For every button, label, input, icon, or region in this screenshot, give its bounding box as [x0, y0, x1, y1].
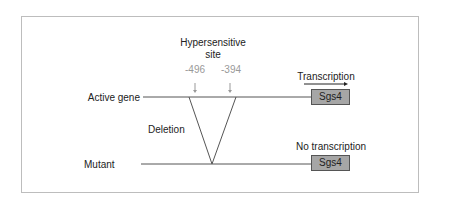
mutant-label: Mutant — [84, 159, 115, 170]
hypersensitive-site-label: Hypersensitive — [180, 37, 246, 48]
deletion-label: Deletion — [148, 124, 185, 135]
arrow-right-icon — [344, 82, 348, 86]
deletion-right-edge — [212, 97, 236, 164]
position-label-394: -394 — [221, 64, 241, 75]
gene-box-sgs4-mutant: Sgs4 — [311, 155, 350, 171]
deletion-left-edge — [189, 97, 212, 164]
diagram-lines — [0, 0, 458, 207]
hypersensitive-site-label-2: site — [205, 49, 221, 60]
arrow-down-icon — [193, 90, 197, 93]
no-transcription-label: No transcription — [296, 141, 366, 152]
transcription-label: Transcription — [297, 71, 354, 82]
arrow-down-icon — [228, 90, 232, 93]
position-label-496: -496 — [185, 64, 205, 75]
gene-box-sgs4-active: Sgs4 — [311, 89, 350, 105]
active-gene-label: Active gene — [88, 92, 140, 103]
